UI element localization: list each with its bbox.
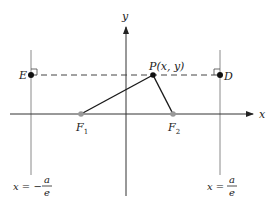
- left-directrix-lhs: x = −: [13, 181, 42, 192]
- point-e-label: E: [18, 69, 27, 82]
- focus-f2: [170, 111, 176, 117]
- point-e: [28, 72, 34, 78]
- left-directrix-equation: x = − a e: [13, 174, 52, 198]
- right-directrix-equation: x = a e: [207, 174, 237, 198]
- point-d-label: D: [223, 70, 233, 83]
- point-d: [217, 72, 223, 78]
- focus-f2-letter: F: [167, 121, 176, 134]
- left-directrix-numerator: a: [44, 174, 50, 185]
- focus-f2-subscript: 2: [176, 128, 180, 136]
- left-directrix-denominator: e: [44, 187, 50, 198]
- focus-f2-label: F2: [167, 121, 180, 136]
- ellipse-directrix-diagram: y x P(x, y) E D F1 F2 x = − a e x = a e: [0, 0, 276, 206]
- y-axis-label: y: [121, 10, 129, 23]
- right-directrix-lhs: x =: [207, 181, 224, 192]
- segment-p-to-f2: [153, 75, 173, 114]
- focus-f1-label: F1: [75, 121, 88, 136]
- point-p: [150, 72, 156, 78]
- x-axis-label: x: [259, 108, 266, 121]
- point-p-label: P(x, y): [148, 60, 184, 73]
- segment-f1-to-p: [81, 75, 153, 114]
- right-directrix-denominator: e: [229, 187, 235, 198]
- right-directrix-numerator: a: [229, 174, 235, 185]
- focus-f1-subscript: 1: [84, 128, 88, 136]
- focus-f1-letter: F: [75, 121, 84, 134]
- focus-f1: [78, 111, 84, 117]
